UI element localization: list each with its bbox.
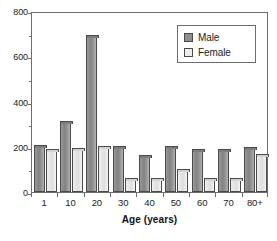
legend-label-male: Male — [198, 32, 219, 43]
x-axis-tick-label: 20 — [84, 197, 110, 208]
bar-top-cap — [165, 146, 178, 149]
bar-group — [137, 13, 163, 192]
bar-top-cap — [46, 149, 59, 152]
y-axis-tick-label: 400 — [2, 99, 28, 108]
y-axis: 0200400600800 — [0, 0, 28, 241]
y-axis-tick — [28, 104, 32, 105]
y-axis-tick — [28, 58, 32, 59]
x-axis-tick-label: 70 — [215, 197, 241, 208]
bar-top-cap — [192, 149, 205, 152]
bar-group — [111, 13, 137, 192]
bar-top-cap — [151, 178, 164, 181]
bar-male — [165, 148, 176, 192]
bar-male — [86, 37, 97, 192]
x-axis-tick-label: 80+ — [242, 197, 268, 208]
x-axis-title: Age (years) — [31, 214, 268, 225]
bar-male — [60, 123, 71, 192]
legend-item-female: Female — [184, 45, 255, 59]
bar-female — [151, 180, 162, 192]
bar-top-cap — [204, 178, 217, 181]
bar-female — [256, 156, 267, 192]
bar-female — [177, 171, 188, 192]
x-axis-tick-label: 60 — [189, 197, 215, 208]
legend-label-female: Female — [198, 47, 231, 58]
bar-top-cap — [86, 35, 99, 38]
legend-item-male: Male — [184, 30, 255, 44]
legend-swatch-female-icon — [184, 48, 193, 57]
y-axis-tick-label: 600 — [2, 53, 28, 62]
legend-swatch-male-icon — [184, 33, 193, 42]
x-axis-labels: 11020304050607080+ — [31, 197, 268, 210]
bar-top-cap — [256, 154, 269, 157]
bar-female — [125, 180, 136, 192]
bar-top-cap — [230, 178, 243, 181]
x-axis-tick-label: 1 — [31, 197, 57, 208]
y-axis-tick-label: 0 — [2, 189, 28, 198]
x-axis-tick-label: 50 — [163, 197, 189, 208]
bar-top-cap — [244, 147, 257, 150]
bar-top-cap — [177, 169, 190, 172]
y-axis-minor-tick — [29, 126, 32, 127]
y-axis-minor-tick — [29, 171, 32, 172]
chart-title-remnant — [31, 0, 268, 4]
bar-female — [46, 151, 57, 192]
bar-top-cap — [72, 148, 85, 151]
y-axis-tick-label: 800 — [2, 8, 28, 17]
bar-top-cap — [113, 146, 126, 149]
bar-male — [244, 149, 255, 192]
y-axis-tick — [28, 13, 32, 14]
bar-top-cap — [139, 155, 152, 158]
bar-female — [230, 180, 241, 192]
bar-male — [139, 157, 150, 192]
bar-top-cap — [125, 178, 138, 181]
bar-top-cap — [218, 149, 231, 152]
x-axis-tick-label: 10 — [57, 197, 83, 208]
bar-male — [34, 147, 45, 192]
bar-male — [192, 151, 203, 192]
bar-group — [85, 13, 111, 192]
x-axis-tick-label: 40 — [136, 197, 162, 208]
bar-female — [204, 180, 215, 192]
y-axis-tick-label: 200 — [2, 144, 28, 153]
bar-male — [218, 151, 229, 192]
x-axis-tick-label: 30 — [110, 197, 136, 208]
bar-chart-figure: 0200400600800 11020304050607080+ Age (ye… — [0, 0, 277, 241]
chart-legend: Male Female — [177, 25, 256, 63]
bar-female — [98, 148, 109, 192]
y-axis-minor-tick — [29, 81, 32, 82]
y-axis-tick — [28, 149, 32, 150]
bar-male — [113, 148, 124, 192]
bar-group — [32, 13, 58, 192]
bar-female — [72, 150, 83, 192]
y-axis-minor-tick — [29, 36, 32, 37]
bar-top-cap — [34, 145, 47, 148]
bar-top-cap — [60, 121, 73, 124]
bar-group — [58, 13, 84, 192]
bar-top-cap — [98, 146, 111, 149]
